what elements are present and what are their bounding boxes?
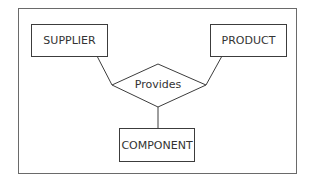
entity-product-label: PRODUCT [222, 34, 276, 47]
entity-product: PRODUCT [210, 24, 287, 57]
entity-component-label: COMPONENT [121, 139, 192, 152]
entity-supplier: SUPPLIER [31, 24, 108, 57]
relationship-provides-label: Provides [118, 78, 198, 91]
entity-component: COMPONENT [119, 128, 195, 162]
entity-supplier-label: SUPPLIER [43, 34, 95, 47]
